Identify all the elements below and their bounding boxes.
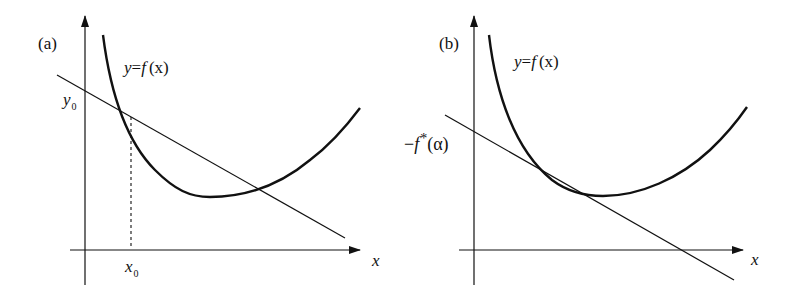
- panel-b-label: (b): [439, 34, 459, 53]
- panel-a-curve-label: y=f(x): [122, 58, 169, 77]
- panel-b-tangent-line: [445, 115, 734, 280]
- panel-a-label: (a): [38, 34, 57, 53]
- panel-a-x-axis-label: x: [371, 251, 380, 270]
- panel-b-curve-label: y=f(x): [512, 52, 559, 71]
- panel-a: (a) y=f(x) y0 x0 x: [38, 16, 380, 285]
- panel-b-intercept-label: −f*(α): [404, 131, 449, 155]
- panel-b-x-axis-label: x: [750, 250, 759, 269]
- panel-a-x0-label: x0: [124, 257, 139, 279]
- panel-a-y0-label: y0: [61, 90, 77, 112]
- convex-conjugate-figure: (a) y=f(x) y0 x0 x (b) y=f(x) −f*(α) x: [0, 0, 806, 297]
- panel-b: (b) y=f(x) −f*(α) x: [404, 16, 759, 285]
- panel-a-line: [57, 75, 345, 238]
